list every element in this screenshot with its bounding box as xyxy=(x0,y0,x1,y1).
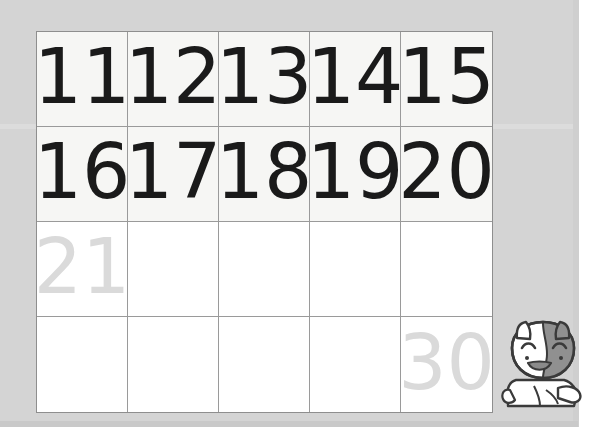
cell-number: 17 xyxy=(128,134,219,210)
grid-cell-r1-c1[interactable]: 11 xyxy=(37,32,128,127)
grid-cell-r2-c5[interactable]: 20 xyxy=(401,127,492,222)
cell-number: 20 xyxy=(401,134,492,210)
worksheet-page: 111213141516171819202130 xyxy=(0,0,608,440)
grid-cell-r4-c3[interactable] xyxy=(219,317,310,412)
card-edge-shadow-bottom xyxy=(0,421,578,427)
grid-cell-r2-c2[interactable]: 17 xyxy=(128,127,219,222)
grid-cell-r4-c5[interactable]: 30 xyxy=(401,317,492,412)
cat-mascot xyxy=(500,318,588,410)
grid-cell-r3-c5[interactable] xyxy=(401,222,492,317)
grid-cell-r1-c4[interactable]: 14 xyxy=(310,32,401,127)
grid-cell-r1-c5[interactable]: 15 xyxy=(401,32,492,127)
grid-cell-r4-c1[interactable] xyxy=(37,317,128,412)
grid-cell-r3-c4[interactable] xyxy=(310,222,401,317)
grid-cell-r4-c4[interactable] xyxy=(310,317,401,412)
grid-cell-r2-c1[interactable]: 16 xyxy=(37,127,128,222)
grid-cell-r3-c1[interactable]: 21 xyxy=(37,222,128,317)
cell-number: 19 xyxy=(310,134,401,210)
grid-cell-r3-c3[interactable] xyxy=(219,222,310,317)
cell-number: 15 xyxy=(401,39,492,115)
grid-cell-r2-c3[interactable]: 18 xyxy=(219,127,310,222)
cell-number: 11 xyxy=(37,39,128,115)
grid-cell-r1-c3[interactable]: 13 xyxy=(219,32,310,127)
cell-number: 12 xyxy=(128,39,219,115)
grid-cell-r4-c2[interactable] xyxy=(128,317,219,412)
cell-number: 21 xyxy=(37,229,128,305)
number-grid: 111213141516171819202130 xyxy=(36,31,493,413)
cell-number: 16 xyxy=(37,134,128,210)
grid-cell-r2-c4[interactable]: 19 xyxy=(310,127,401,222)
grid-cell-r1-c2[interactable]: 12 xyxy=(128,32,219,127)
cell-number: 14 xyxy=(310,39,401,115)
cell-number: 18 xyxy=(219,134,310,210)
cell-number: 13 xyxy=(219,39,310,115)
cell-number: 30 xyxy=(401,325,492,401)
grid-cell-r3-c2[interactable] xyxy=(128,222,219,317)
